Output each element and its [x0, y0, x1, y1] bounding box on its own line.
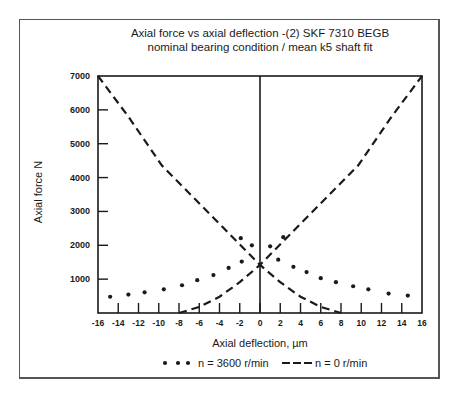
series-dot-n3600: [291, 265, 295, 269]
series-dot-n3600: [240, 259, 244, 263]
x-tick-label: -12: [132, 318, 145, 328]
x-tick-label: 16: [417, 318, 427, 328]
series-dot-n3600: [351, 284, 355, 288]
x-tick-label: -2: [236, 318, 244, 328]
series-dot-n3600: [227, 266, 231, 270]
y-tick-label: 6000: [70, 105, 90, 115]
series-dot-n3600: [319, 276, 323, 280]
series-dot-n3600: [366, 287, 370, 291]
series-dot-n3600: [406, 293, 410, 297]
series-dot-n3600: [180, 283, 184, 287]
x-tick-label: 2: [278, 318, 283, 328]
series-dot-n3600: [304, 270, 308, 274]
x-tick-label: 8: [339, 318, 344, 328]
y-tick-label: 5000: [70, 139, 90, 149]
series-dot-n3600: [276, 258, 280, 262]
x-tick-label: 10: [357, 318, 367, 328]
series-dashed-n0: [98, 76, 341, 313]
legend-label-0: n = 0 r/min: [315, 357, 367, 369]
x-tick-label: -16: [92, 318, 105, 328]
y-tick-label: 7000: [70, 71, 90, 81]
series-dot-n3600: [239, 236, 243, 240]
x-tick-label: -4: [216, 318, 224, 328]
x-tick-label: 6: [318, 318, 323, 328]
series-dot-n3600: [162, 287, 166, 291]
series-dot-n3600: [386, 291, 390, 295]
legend-dot-icon: [186, 361, 190, 365]
legend-dot-icon: [163, 361, 167, 365]
x-tick-label: -6: [195, 318, 203, 328]
plot-area: -16-14-12-10-8-6-4-202468101214161000200…: [0, 0, 455, 393]
series-dot-n3600: [334, 280, 338, 284]
x-tick-label: 0: [258, 318, 263, 328]
legend-label-3600: n = 3600 r/min: [198, 357, 269, 369]
x-tick-label: -14: [112, 318, 125, 328]
x-tick-label: -8: [175, 318, 183, 328]
series-dot-n3600: [211, 273, 215, 277]
y-tick-label: 4000: [70, 173, 90, 183]
series-dashed-n0: [179, 76, 422, 313]
series-dot-n3600: [108, 295, 112, 299]
series-dot-n3600: [250, 243, 254, 247]
x-tick-label: 4: [298, 318, 303, 328]
series-dot-n3600: [126, 292, 130, 296]
x-tick-label: -10: [153, 318, 166, 328]
y-tick-label: 2000: [70, 240, 90, 250]
series-dot-n3600: [142, 290, 146, 294]
x-tick-label: 12: [377, 318, 387, 328]
series-dot-n3600: [195, 278, 199, 282]
x-tick-label: 14: [397, 318, 407, 328]
y-tick-label: 1000: [70, 274, 90, 284]
y-tick-label: 3000: [70, 206, 90, 216]
series-dot-n3600: [268, 244, 272, 248]
legend-dot-icon: [176, 361, 180, 365]
